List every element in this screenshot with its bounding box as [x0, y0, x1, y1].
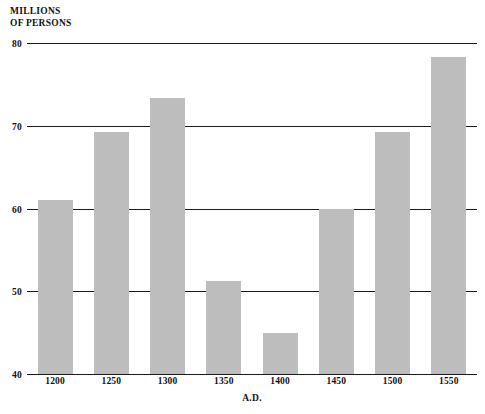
- y-tick-label-70: 70: [12, 122, 22, 132]
- gridline-40: 40: [27, 374, 477, 375]
- x-tick-label-1450: 1450: [326, 376, 346, 386]
- x-tick-label-1400: 1400: [270, 376, 290, 386]
- category-axis: 12001250130013501400145015001550: [27, 376, 477, 390]
- x-tick-label-1300: 1300: [158, 376, 178, 386]
- x-tick-label-1200: 1200: [45, 376, 65, 386]
- y-tick-label-50: 50: [12, 287, 22, 297]
- y-tick-label-60: 60: [12, 205, 22, 215]
- x-axis-title: A.D.: [27, 393, 477, 403]
- bar-1500: [375, 132, 410, 374]
- x-tick-label-1550: 1550: [439, 376, 459, 386]
- bar-1400: [263, 333, 298, 374]
- y-tick-label-80: 80: [12, 39, 22, 49]
- bar-1300: [150, 98, 185, 374]
- y-axis-title: MILLIONS OF PERSONS: [10, 6, 72, 29]
- bar-1250: [94, 132, 129, 374]
- bar-1550: [431, 57, 466, 374]
- bar-1450: [319, 209, 354, 375]
- bar-chart-figure: MILLIONS OF PERSONS 4050607080 120012501…: [0, 0, 485, 414]
- y-tick-label-40: 40: [12, 370, 22, 380]
- x-tick-label-1250: 1250: [101, 376, 121, 386]
- x-tick-label-1350: 1350: [214, 376, 234, 386]
- bar-1200: [38, 200, 73, 374]
- x-tick-label-1500: 1500: [383, 376, 403, 386]
- bars-layer: [27, 43, 477, 374]
- plot-area: 4050607080: [27, 43, 477, 374]
- bar-1350: [206, 281, 241, 374]
